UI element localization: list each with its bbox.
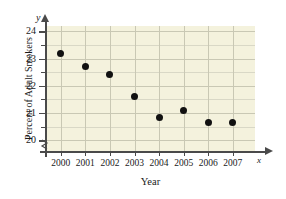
y-axis-tick-label: 22 <box>16 81 36 91</box>
y-axis-arrow-icon <box>41 14 49 22</box>
y-axis-tick <box>39 113 46 115</box>
y-axis-minor-tick <box>41 127 46 128</box>
gridline-horizontal-minor <box>46 127 255 128</box>
x-axis-tick-label: 2007 <box>216 158 250 168</box>
gridline-vertical <box>233 26 234 151</box>
y-axis-minor-tick <box>41 72 46 73</box>
gridline-horizontal-major <box>46 31 255 32</box>
scatter-plot-figure: y x Percent of Adult Smokers Year 202122… <box>0 0 286 199</box>
gridline-vertical <box>208 26 209 151</box>
y-axis-tick <box>39 59 46 61</box>
data-point <box>156 114 163 121</box>
data-point <box>57 50 64 57</box>
gridline-horizontal-major <box>46 113 255 114</box>
gridline-vertical <box>110 26 111 151</box>
x-axis-arrow-icon <box>265 147 273 155</box>
gridline-vertical <box>85 26 86 151</box>
y-axis-minor-tick <box>41 99 46 100</box>
y-axis-tick <box>39 140 46 142</box>
data-point <box>205 119 212 126</box>
y-axis-tick <box>39 86 46 88</box>
y-axis-variable-label: y <box>36 12 40 23</box>
x-axis-tick <box>85 151 86 156</box>
gridline-horizontal-minor <box>46 99 255 100</box>
y-axis-tick-label: 23 <box>16 54 36 64</box>
x-axis-tick <box>208 151 209 156</box>
gridline-vertical <box>184 26 185 151</box>
y-axis-tick <box>39 31 46 33</box>
gridline-horizontal-major <box>46 86 255 87</box>
gridline-horizontal-major <box>46 140 255 141</box>
x-axis-variable-label: x <box>257 155 261 165</box>
gridline-horizontal-minor <box>46 45 255 46</box>
y-axis-tick-label: 20 <box>16 135 36 145</box>
y-axis-minor-tick <box>41 45 46 46</box>
gridline-vertical <box>61 26 62 151</box>
gridline-vertical <box>159 26 160 151</box>
gridline-horizontal-minor <box>46 72 255 73</box>
x-axis-tick <box>110 151 111 156</box>
x-axis-tick <box>184 151 185 156</box>
x-axis-tick <box>159 151 160 156</box>
y-axis-tick-label: 21 <box>16 108 36 118</box>
x-axis-tick <box>135 151 136 156</box>
x-axis-title: Year <box>46 176 255 187</box>
gridline-horizontal-major <box>46 59 255 60</box>
gridline-vertical <box>135 26 136 151</box>
y-axis-tick-label: 24 <box>16 26 36 36</box>
plot-area <box>46 26 255 151</box>
y-axis-line <box>45 20 47 157</box>
data-point <box>180 107 187 114</box>
x-axis-tick <box>233 151 234 156</box>
x-axis-tick <box>61 151 62 156</box>
